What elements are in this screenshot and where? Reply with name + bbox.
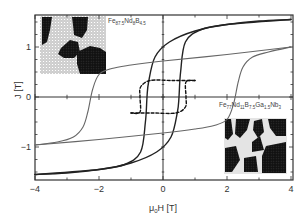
- y-tick-label: 1: [26, 42, 31, 52]
- x-tick-label: −4: [30, 184, 40, 194]
- x-tick-label: 4: [288, 184, 293, 194]
- hysteresis-chart: −4 −2 0 2 4 1 0 −1 μ0H [T] J [T] Fe87.5N…: [0, 0, 305, 220]
- y-tick-label: −1: [21, 142, 31, 152]
- inset-microstructure-1: [40, 16, 106, 74]
- annotation-fe77-nd11-b7-ga-nb: Fe77Nd11B7.5Ga1.5Nb3: [219, 101, 281, 110]
- x-tick-labels: −4 −2 0 2 4: [30, 184, 294, 194]
- x-tick-label: −2: [94, 184, 104, 194]
- y-tick-label: 0: [26, 92, 31, 102]
- x-axis-label: μ0H [T]: [149, 203, 177, 214]
- y-axis-label: J [T]: [13, 81, 23, 99]
- x-tick-label: 0: [160, 184, 165, 194]
- x-tick-label: 2: [224, 184, 229, 194]
- inset-microstructure-2: [224, 118, 287, 174]
- annotation-fe87-nd8-b4: Fe87.5Nd8B4.5: [108, 17, 146, 26]
